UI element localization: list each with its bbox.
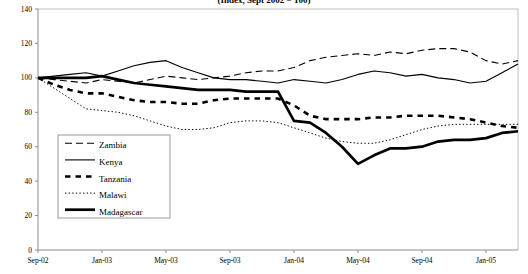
legend-label-madagascar: Madagascar	[99, 207, 142, 217]
legend-label-tanzania: Tanzania	[99, 174, 131, 184]
x-tick-label: Jan-03	[92, 256, 112, 265]
series-line-tanzania	[38, 78, 518, 128]
x-tick-label: Sep-03	[219, 256, 240, 265]
legend-label-zambia: Zambia	[99, 140, 127, 150]
legend-label-kenya: Kenya	[99, 157, 123, 167]
line-chart: (Index, Sept 2002 = 100) 020406080100120…	[0, 0, 528, 274]
legend-label-malawi: Malawi	[99, 190, 127, 200]
series-line-malawi	[38, 78, 518, 143]
x-tick-label: May-04	[346, 256, 370, 265]
y-tick-label: 120	[21, 39, 33, 48]
y-tick-label: 40	[25, 177, 33, 186]
y-tick-label: 0	[28, 246, 32, 255]
y-tick-label: 80	[25, 108, 33, 117]
y-tick-label: 20	[25, 211, 33, 220]
x-tick-label: May-03	[154, 256, 178, 265]
x-tick-label: Sep-02	[27, 256, 48, 265]
x-tick-label: Sep-04	[411, 256, 432, 265]
y-tick-label: 140	[21, 5, 33, 14]
y-tick-label: 100	[21, 73, 33, 82]
series-line-kenya	[38, 61, 518, 83]
x-tick-label: Jan-04	[284, 256, 304, 265]
x-tick-label: Jan-05	[476, 256, 496, 265]
chart-canvas: 020406080100120140Sep-02Jan-03May-03Sep-…	[0, 0, 528, 274]
y-tick-label: 60	[25, 142, 33, 151]
